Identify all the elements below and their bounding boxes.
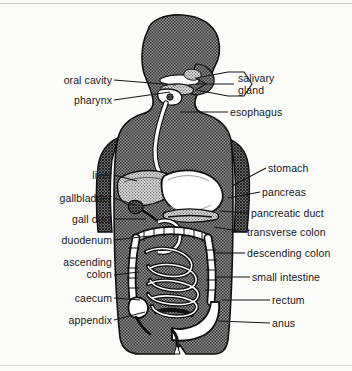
label-ascending-colon: ascending colon: [26, 256, 112, 280]
label-anus: anus: [272, 317, 295, 329]
digestive-system-figure: oral cavitypharynxlivergallbladdergall d…: [0, 0, 352, 371]
label-duodenum: duodenum: [21, 234, 112, 246]
label-esophagus: esophagus: [230, 106, 282, 118]
label-gall-duct: gall duct: [29, 213, 112, 225]
label-salivary-gland: salivary gland: [238, 72, 274, 96]
gallbladder-organ: [128, 200, 143, 213]
label-liver: liver: [40, 169, 112, 181]
label-pharynx: pharynx: [39, 94, 112, 106]
label-stomach: stomach: [268, 162, 308, 174]
label-rectum: rectum: [272, 294, 305, 306]
label-oral-cavity: oral cavity: [44, 74, 112, 86]
label-descending-colon: descending colon: [247, 247, 330, 259]
label-appendix: appendix: [33, 314, 112, 326]
caecum-organ: [129, 297, 149, 318]
label-caecum: caecum: [40, 292, 112, 304]
label-pancreatic-duct: pancreatic duct: [251, 207, 324, 219]
label-transverse-colon: transverse colon: [247, 226, 326, 238]
label-small-intestine: small intestine: [252, 271, 320, 283]
label-pancreas: pancreas: [262, 186, 306, 198]
label-gallbladder: gallbladder: [18, 192, 112, 204]
